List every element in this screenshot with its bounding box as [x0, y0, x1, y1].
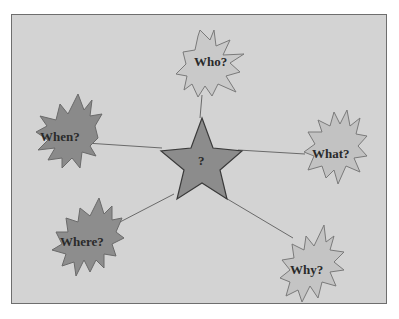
mind-map-diagram: Who? When? What? Where? Why? ?	[0, 0, 399, 319]
node-when[interactable]: When?	[36, 94, 102, 168]
node-label-what: What?	[312, 146, 350, 161]
center-star[interactable]: ?	[161, 118, 242, 199]
connector-who	[200, 95, 202, 118]
node-what[interactable]: What?	[304, 110, 367, 184]
node-who[interactable]: Who?	[176, 30, 244, 97]
connector-what	[238, 150, 305, 154]
node-label-when: When?	[40, 129, 80, 144]
node-label-where: Where?	[60, 234, 104, 249]
center-label: ?	[198, 153, 205, 168]
node-where[interactable]: Where?	[52, 198, 124, 276]
connector-when	[86, 143, 162, 148]
node-label-why: Why?	[290, 262, 323, 277]
connector-why	[224, 197, 293, 238]
node-label-who: Who?	[194, 54, 227, 69]
connector-where	[120, 194, 174, 222]
